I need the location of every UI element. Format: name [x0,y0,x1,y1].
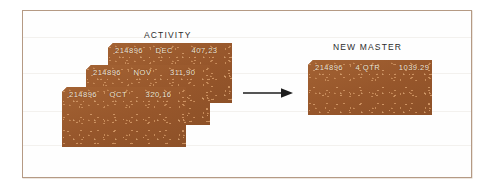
punch-card-text-row: 214896 DEC 407.23 [115,46,218,55]
arrow-right-icon [243,86,293,100]
card-period: DEC [156,46,173,55]
card-id: 214896 [93,68,121,77]
punch-card-new-master: 214896 4 QTR 1039.29 [308,60,432,115]
punch-card-activity-oct: 214896 OCT 320.16 [62,87,186,147]
card-period: OCT [110,90,127,99]
card-amount: 1039.29 [399,63,430,72]
card-id: 214896 [69,90,97,99]
card-id: 214896 [115,46,143,55]
card-amount: 311.90 [170,68,195,77]
punch-card-text-row: 214896 OCT 320.16 [69,90,172,99]
card-amount: 407.23 [192,46,218,55]
card-period: 4 QTR [356,63,381,72]
card-id: 214896 [315,63,343,72]
card-amount: 320.16 [146,90,172,99]
activity-group-caption: ACTIVITY [144,30,191,40]
scan-artifact-line [23,37,471,38]
card-period: NOV [134,68,152,77]
punch-card-text-row: 214896 NOV 311.90 [93,68,195,77]
punch-card-text-row: 214896 4 QTR 1039.29 [315,63,429,72]
new-master-group-caption: NEW MASTER [333,42,402,52]
